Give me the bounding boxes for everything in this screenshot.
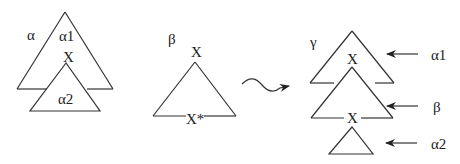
beta-foot-x-star-label: X*	[186, 111, 204, 127]
alpha1-label: α1	[59, 28, 74, 44]
annotation-beta-label: β	[433, 99, 441, 115]
beta-tree: β X X*	[153, 31, 236, 127]
gamma-tree: γ X X α1 β α2	[309, 31, 446, 154]
alpha-label: α	[27, 27, 35, 43]
arrow-beta-annotation: β	[387, 99, 441, 115]
adjunction-diagram: α α1 X α2 β X X*	[0, 0, 460, 164]
gamma-lower-x-label: X	[347, 110, 358, 126]
arrow-alpha1-annotation: α1	[387, 47, 446, 63]
gamma-label: γ	[309, 34, 317, 50]
beta-label: β	[168, 31, 176, 47]
arrow-alpha2-annotation: α2	[386, 136, 446, 152]
alpha-node-x-label: X	[63, 49, 74, 65]
gamma-alpha2-triangle	[329, 127, 373, 154]
annotation-alpha1-label: α1	[431, 47, 446, 63]
annotation-alpha2-label: α2	[431, 136, 446, 152]
gamma-upper-x-label: X	[347, 51, 358, 67]
beta-triangle	[153, 62, 236, 116]
alpha-tree: α α1 X α2	[17, 12, 113, 111]
beta-root-x-label: X	[191, 44, 202, 60]
alpha2-label: α2	[58, 91, 73, 107]
squiggle-arrow-icon	[242, 79, 289, 91]
